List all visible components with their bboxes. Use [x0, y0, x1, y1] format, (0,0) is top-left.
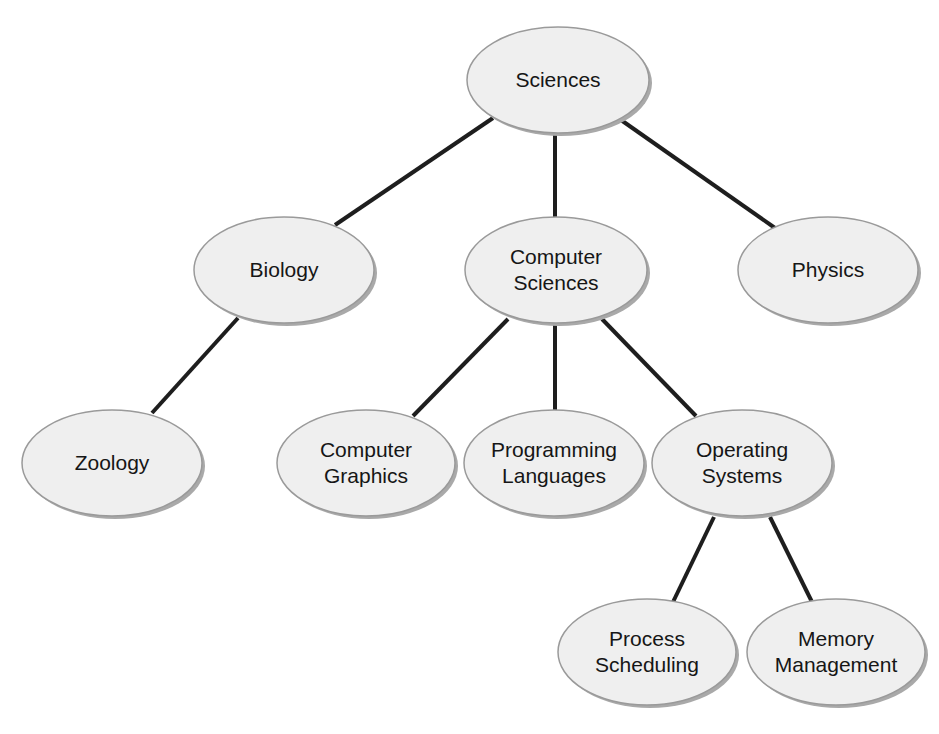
edge-sciences-to-biology [335, 118, 493, 225]
edge-biology-to-zoology [152, 318, 238, 413]
node-zoology: Zoology [22, 410, 205, 519]
edges-layer [152, 118, 812, 602]
node-label: Languages [502, 464, 606, 487]
node-ellipse [747, 599, 925, 705]
edge-operating-systems-to-process-scheduling [673, 517, 714, 602]
node-label: Operating [696, 438, 788, 461]
tree-diagram: SciencesBiologyComputerSciencesPhysicsZo… [0, 0, 939, 734]
node-computer-graphics: ComputerGraphics [277, 410, 458, 519]
node-process-scheduling: ProcessScheduling [558, 599, 739, 708]
node-ellipse [465, 217, 647, 323]
edge-sciences-to-physics [621, 120, 775, 228]
node-label: Zoology [75, 451, 150, 474]
node-label: Systems [702, 464, 783, 487]
node-label: Graphics [324, 464, 408, 487]
node-ellipse [652, 410, 832, 516]
node-label: Management [775, 653, 898, 676]
node-ellipse [558, 599, 736, 705]
edge-operating-systems-to-memory-management [770, 517, 812, 602]
node-label: Sciences [513, 271, 598, 294]
node-memory-management: MemoryManagement [747, 599, 928, 708]
node-label: Programming [491, 438, 617, 461]
node-label: Sciences [515, 68, 600, 91]
node-ellipse [277, 410, 455, 516]
node-operating-systems: OperatingSystems [652, 410, 835, 519]
edge-computer-sciences-to-computer-graphics [413, 319, 508, 416]
node-label: Scheduling [595, 653, 699, 676]
node-sciences: Sciences [467, 27, 652, 136]
node-label: Biology [250, 258, 319, 281]
node-label: Computer [510, 245, 602, 268]
node-label: Computer [320, 438, 412, 461]
node-label: Process [609, 627, 685, 650]
node-label: Physics [792, 258, 864, 281]
node-ellipse [464, 410, 644, 516]
edge-computer-sciences-to-operating-systems [602, 319, 696, 416]
node-computer-sciences: ComputerSciences [465, 217, 650, 326]
node-programming-languages: ProgrammingLanguages [464, 410, 647, 519]
node-physics: Physics [738, 217, 921, 326]
node-biology: Biology [194, 217, 377, 326]
node-label: Memory [798, 627, 874, 650]
